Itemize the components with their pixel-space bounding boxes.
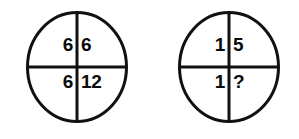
right-circle-graphic — [177, 10, 281, 124]
right-circle-missing-value: ? — [233, 72, 244, 91]
left-circle-bottom-left-value: 6 — [63, 72, 73, 91]
left-circle-top-right-value: 6 — [81, 35, 91, 54]
right-circle: 1 5 1 ? — [177, 10, 281, 124]
right-circle-top-right-value: 5 — [233, 35, 243, 54]
left-circle-top-left-value: 6 — [63, 35, 73, 54]
right-circle-bottom-left-value: 1 — [215, 72, 225, 91]
right-circle-top-left-value: 1 — [215, 35, 225, 54]
left-circle-bottom-right-value: 12 — [81, 72, 102, 91]
left-circle: 6 6 6 12 — [25, 10, 129, 124]
puzzle-stage: 6 6 6 12 1 5 1 ? — [0, 0, 299, 139]
left-circle-graphic — [25, 10, 129, 124]
